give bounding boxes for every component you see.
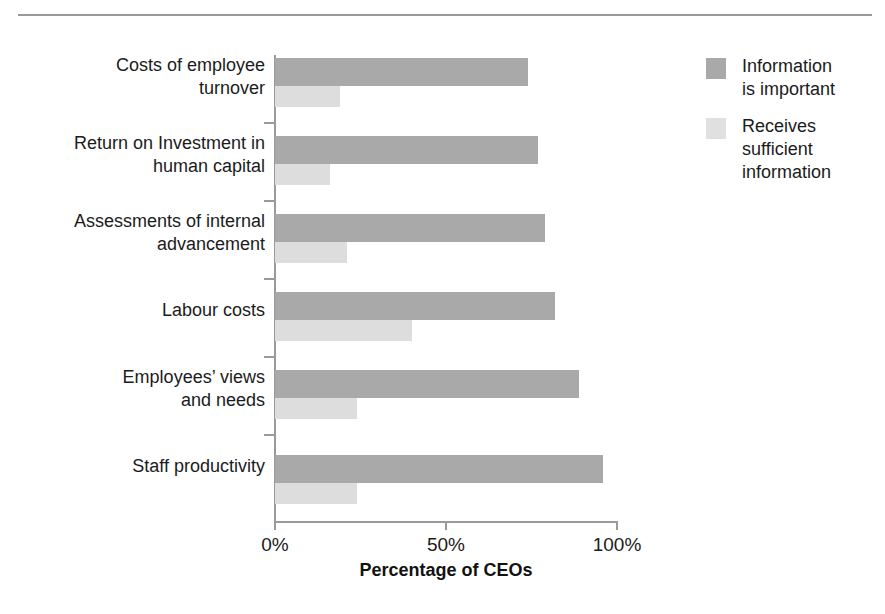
- x-axis-tick-50: [445, 521, 447, 530]
- bar-information-important: [275, 455, 603, 483]
- y-axis-tick: [264, 278, 275, 280]
- bar-receives-sufficient: [275, 398, 357, 419]
- x-axis-tick-label-50: 50%: [427, 534, 465, 556]
- legend-swatch-icon: [706, 118, 726, 139]
- y-axis-tick: [264, 434, 275, 436]
- bar-information-important: [275, 136, 538, 164]
- category-label: Costs of employee turnover: [0, 54, 265, 100]
- y-axis-line: [274, 55, 276, 521]
- category-label: Return on Investment in human capital: [0, 132, 265, 178]
- bar-receives-sufficient: [275, 164, 330, 185]
- legend-label: Receives sufficient information: [742, 115, 881, 184]
- y-axis-tick: [264, 356, 275, 358]
- y-axis-tick: [264, 122, 275, 124]
- bar-information-important: [275, 214, 545, 242]
- bar-information-important: [275, 292, 555, 320]
- category-label: Staff productivity: [0, 455, 265, 478]
- x-axis-tick-100: [616, 521, 618, 530]
- category-label: Assessments of internal advancement: [0, 210, 265, 256]
- plot-area: 0% 50% 100%: [275, 55, 617, 521]
- legend-swatch-icon: [706, 58, 726, 79]
- y-axis-tick: [264, 200, 275, 202]
- bar-receives-sufficient: [275, 483, 357, 504]
- category-axis-labels: Costs of employee turnover Return on Inv…: [0, 0, 265, 466]
- bar-receives-sufficient: [275, 242, 347, 263]
- chart-legend: Information is important Receives suffic…: [706, 55, 881, 198]
- category-label: Labour costs: [0, 299, 265, 322]
- x-axis-tick-label-100: 100%: [593, 534, 642, 556]
- bar-chart-figure: Costs of employee turnover Return on Inv…: [0, 0, 885, 614]
- legend-entry-receives-sufficient: Receives sufficient information: [706, 115, 881, 184]
- legend-label: Information is important: [742, 55, 881, 101]
- x-axis-tick-0: [274, 521, 276, 530]
- bar-information-important: [275, 58, 528, 86]
- x-axis-tick-label-0: 0%: [261, 534, 288, 556]
- legend-entry-information-important: Information is important: [706, 55, 881, 101]
- x-axis-title: Percentage of CEOs: [275, 560, 617, 581]
- bar-information-important: [275, 370, 579, 398]
- bar-receives-sufficient: [275, 86, 340, 107]
- category-label: Employees’ views and needs: [0, 366, 265, 412]
- bar-receives-sufficient: [275, 320, 412, 341]
